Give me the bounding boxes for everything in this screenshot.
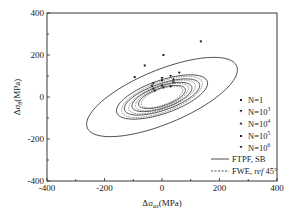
legend-item-n1e6: N=106 [240, 142, 271, 153]
svg-text:N=103: N=103 [248, 106, 270, 117]
legend-item-n1e3: N=103 [240, 106, 271, 117]
fwe-ellipse [122, 76, 203, 117]
fwe-ellipse [141, 86, 183, 107]
ellipse-curves [87, 57, 238, 136]
legend-item-ftpf: FTPF, SB [211, 154, 266, 164]
ftpf-ellipse [116, 75, 207, 119]
data-point [152, 88, 154, 90]
legend-item-n1: N=1 [240, 95, 263, 105]
data-point [178, 72, 181, 75]
x-tick-label: -400 [39, 183, 56, 193]
data-point [173, 81, 175, 83]
svg-text:FTPF, SB: FTPF, SB [232, 154, 266, 164]
svg-text:N=1: N=1 [248, 95, 263, 105]
x-tick-label: -200 [96, 183, 113, 193]
y-axis-tick-labels: -400-2000200400 [28, 8, 45, 186]
legend: N=1 N=103 N=104 N=105 N=106 FTPF, SB FWE… [211, 95, 277, 177]
ftpf-ellipse [139, 85, 186, 108]
legend-item-n1e5: N=105 [240, 130, 270, 141]
svg-text:N=106: N=106 [248, 142, 270, 153]
chart-canvas: -400-2000200400 -400-2000200400 Δσθ(MPa)… [0, 0, 300, 223]
data-point [134, 76, 136, 78]
y-tick-label: 200 [31, 50, 45, 60]
y-axis-label: Δσθ(MPa) [12, 79, 23, 116]
x-axis-label: Δσax(MPa) [142, 198, 181, 209]
data-point [200, 40, 202, 42]
data-point [161, 84, 163, 86]
data-point [162, 54, 164, 56]
svg-text:FWE, ref 45°: FWE, ref 45° [232, 166, 277, 176]
y-tick-label: -200 [28, 134, 45, 144]
x-tick-label: 200 [213, 183, 227, 193]
svg-text:N=105: N=105 [248, 130, 270, 141]
ftpf-ellipse [87, 57, 238, 136]
svg-text:N=104: N=104 [248, 118, 270, 129]
x-tick-label: 400 [270, 183, 284, 193]
y-tick-label: 0 [40, 92, 45, 102]
data-point [144, 65, 146, 67]
legend-item-n1e4: N=104 [240, 118, 271, 129]
x-tick-label: 0 [160, 183, 165, 193]
legend-item-fwe: FWE, ref 45° [211, 166, 277, 176]
y-tick-label: 400 [31, 8, 45, 18]
x-axis-tick-labels: -400-2000200400 [39, 183, 285, 193]
